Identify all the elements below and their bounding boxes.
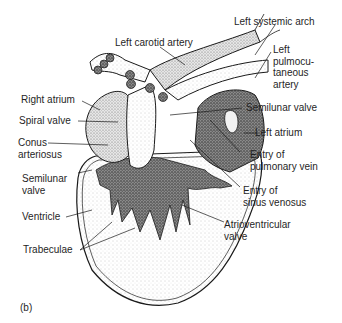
label-left-atrium: Left atrium: [255, 127, 302, 139]
label-left-pulmocutaneous-artery: Left pulmocu- taneous artery: [273, 44, 314, 90]
right-atrium-shape: [86, 91, 132, 162]
label-right-atrium: Right atrium: [21, 94, 75, 106]
conus-arteriosus-shape: [127, 85, 156, 168]
label-trabeculae: Trabeculae: [23, 244, 73, 256]
label-semilunar-valve-right: Semilunar valve: [246, 102, 317, 114]
label-entry-sinus-venosus: Entry of sinus venosus: [243, 185, 306, 208]
label-conus-arteriosus: Conus arteriosus: [18, 137, 62, 160]
label-semilunar-valve-left: Semilunar valve: [22, 173, 67, 196]
label-entry-pulmonary-vein: Entry of pulmonary vein: [250, 149, 318, 172]
panel-label: (b): [20, 302, 32, 314]
label-ventricle: Ventricle: [22, 211, 60, 223]
label-left-systemic-arch: Left systemic arch: [234, 16, 315, 28]
label-atrioventricular-valve: Atrioventricular valve: [224, 219, 291, 242]
label-left-carotid-artery: Left carotid artery: [115, 37, 193, 49]
label-spiral-valve: Spiral valve: [19, 115, 71, 127]
